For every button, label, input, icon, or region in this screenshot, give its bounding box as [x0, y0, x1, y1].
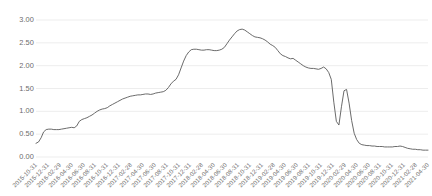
x-axis: 2015-10-312015-12-312016-02-292016-04-30…: [0, 0, 432, 196]
line-chart: 0.000.501.001.502.002.503.00 2015-10-312…: [0, 0, 432, 196]
